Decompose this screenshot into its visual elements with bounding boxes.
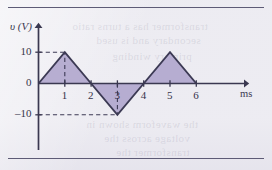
x-tick-label: 6	[193, 89, 199, 101]
waveform-figure: transformer has a turns ratiosecondary a…	[0, 0, 272, 170]
y-axis-label: υ (V)	[10, 20, 32, 32]
x-tick-label: 1	[62, 89, 68, 101]
plot-canvas	[0, 0, 272, 170]
x-tick-label: 2	[88, 89, 94, 101]
x-tick-label: 3	[114, 89, 120, 101]
y-tick-label: 10	[6, 45, 32, 57]
y-tick-label: –10	[6, 107, 32, 119]
x-tick-label: 5	[167, 89, 173, 101]
y-tick-label: 0	[6, 76, 32, 88]
x-tick-label: 4	[141, 89, 147, 101]
x-axis-label: ms	[240, 88, 252, 99]
